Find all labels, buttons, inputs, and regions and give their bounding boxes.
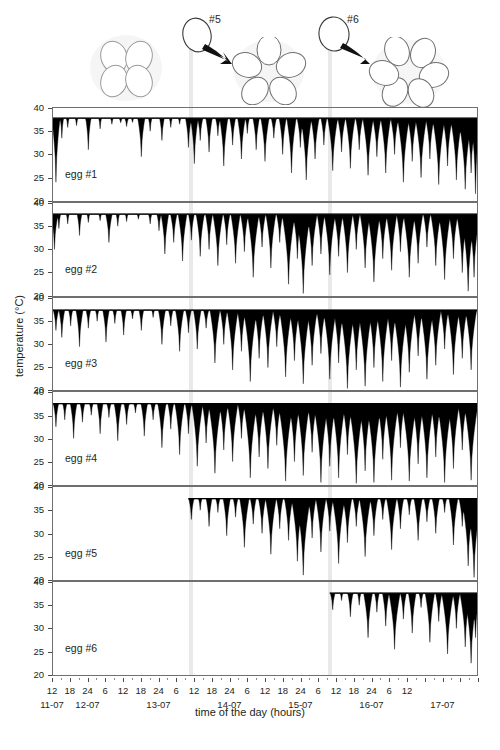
x-tick-minor — [185, 678, 186, 681]
x-tick-major — [372, 678, 373, 682]
x-tick-minor — [469, 678, 470, 681]
x-tick-major — [301, 678, 302, 682]
y-tick-mark — [48, 462, 52, 463]
x-tick-minor — [274, 678, 275, 681]
x-tick-major — [265, 678, 266, 682]
x-tick-major — [407, 678, 408, 682]
panel-egg-1: egg #1 — [52, 107, 478, 202]
y-tick-mark — [48, 439, 52, 440]
panel-label: egg #6 — [65, 642, 97, 654]
x-tick-minor — [416, 678, 417, 681]
y-tick-label: 30 — [22, 528, 44, 539]
y-tick-mark — [48, 201, 52, 202]
y-tick-mark — [48, 226, 52, 227]
x-tick-major — [389, 678, 390, 682]
y-tick-mark — [48, 510, 52, 511]
temperature-trace — [53, 582, 477, 675]
clutch-diagram-5-eggs — [228, 37, 310, 105]
x-tick-major — [105, 678, 106, 682]
y-tick-mark — [48, 487, 52, 488]
egg-5-annotation-label: #5 — [209, 13, 221, 25]
y-tick-label: 35 — [22, 504, 44, 515]
x-tick-major — [354, 678, 355, 682]
y-tick-mark — [48, 628, 52, 629]
x-tick-minor — [256, 678, 257, 681]
y-tick-mark — [48, 108, 52, 109]
y-tick-label: 30 — [22, 148, 44, 159]
y-tick-mark — [48, 605, 52, 606]
y-tick-label: 40 — [22, 102, 44, 113]
x-tick-minor — [327, 678, 328, 681]
y-tick-label: 40 — [22, 576, 44, 587]
y-tick-label: 35 — [22, 410, 44, 421]
x-tick-minor — [132, 678, 133, 681]
panel-label: egg #4 — [65, 452, 97, 464]
x-tick-major — [336, 678, 337, 682]
incubation-temperature-figure: #5 #6 — [0, 0, 500, 750]
x-tick-minor — [221, 678, 222, 681]
panel-egg-6: egg #6 — [52, 581, 478, 676]
y-tick-mark — [48, 321, 52, 322]
y-tick-mark — [48, 131, 52, 132]
y-tick-label: 25 — [22, 172, 44, 183]
y-tick-mark — [48, 485, 52, 486]
y-tick-label: 25 — [22, 266, 44, 277]
y-tick-label: 35 — [22, 599, 44, 610]
x-tick-minor — [79, 678, 80, 681]
egg-6-annotation-label: #6 — [347, 13, 359, 25]
y-tick-label: 30 — [22, 338, 44, 349]
y-tick-label: 35 — [22, 220, 44, 231]
x-tick-major — [443, 678, 444, 682]
y-tick-mark — [48, 416, 52, 417]
x-tick-major — [460, 678, 461, 682]
y-tick-label: 30 — [22, 622, 44, 633]
x-tick-major — [88, 678, 89, 682]
x-tick-minor — [292, 678, 293, 681]
panel-egg-2: egg #2 — [52, 202, 478, 297]
y-tick-label: 30 — [22, 243, 44, 254]
x-tick-minor — [451, 678, 452, 681]
y-tick-mark — [48, 178, 52, 179]
x-tick-label: 12 — [395, 685, 419, 696]
y-tick-mark — [48, 580, 52, 581]
x-tick-major — [212, 678, 213, 682]
y-tick-label: 40 — [22, 481, 44, 492]
y-tick-mark — [48, 249, 52, 250]
x-tick-minor — [150, 678, 151, 681]
y-tick-mark — [48, 557, 52, 558]
y-tick-label: 35 — [22, 125, 44, 136]
x-tick-minor — [398, 678, 399, 681]
y-tick-label: 25 — [22, 361, 44, 372]
temperature-trace — [53, 392, 477, 485]
x-tick-major — [70, 678, 71, 682]
panel-label: egg #1 — [65, 168, 97, 180]
x-tick-major — [247, 678, 248, 682]
temperature-trace — [53, 203, 477, 296]
x-tick-minor — [61, 678, 62, 681]
panel-label: egg #5 — [65, 547, 97, 559]
clutch-diagram-6-eggs — [366, 37, 452, 107]
panel-egg-3: egg #3 — [52, 297, 478, 392]
x-tick-minor — [434, 678, 435, 681]
y-tick-mark — [48, 154, 52, 155]
x-tick-minor — [309, 678, 310, 681]
y-tick-mark — [48, 675, 52, 676]
x-axis-label: time of the day (hours) — [0, 706, 500, 718]
y-tick-mark — [48, 203, 52, 204]
temperature-trace — [53, 487, 477, 580]
y-tick-mark — [48, 344, 52, 345]
y-tick-label: 40 — [22, 386, 44, 397]
y-tick-label: 20 — [22, 669, 44, 680]
clutch-diagram-4-eggs — [83, 32, 169, 104]
y-tick-label: 40 — [22, 292, 44, 303]
x-tick-major — [52, 678, 53, 682]
x-tick-major — [159, 678, 160, 682]
x-tick-minor — [114, 678, 115, 681]
y-tick-label: 25 — [22, 456, 44, 467]
x-tick-minor — [345, 678, 346, 681]
y-tick-mark — [48, 390, 52, 391]
temperature-trace — [53, 108, 477, 201]
y-tick-mark — [48, 298, 52, 299]
x-tick-major — [230, 678, 231, 682]
y-tick-mark — [48, 272, 52, 273]
